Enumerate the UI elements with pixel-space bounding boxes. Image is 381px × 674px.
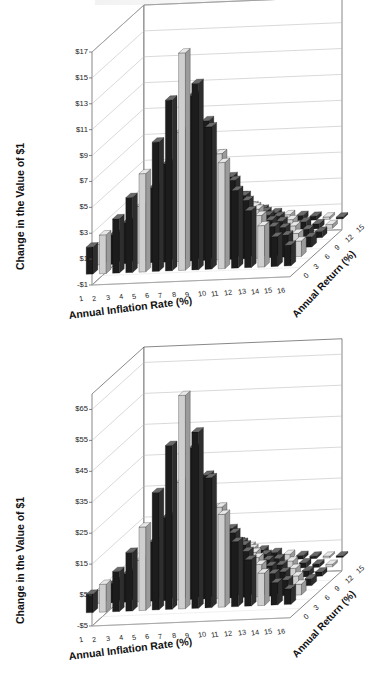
y-axis-tick: $55 (56, 435, 88, 444)
y-axis-tick: $1 (56, 254, 88, 263)
x-axis-tick: 14 (250, 286, 259, 296)
y-axis-tick: $7 (56, 176, 88, 185)
x-axis-tick: 11 (211, 629, 220, 639)
y-axis-tick: $5 (56, 590, 88, 599)
y-axis-tick: $35 (56, 497, 88, 506)
y-axis-tick: $45 (56, 466, 88, 475)
x-axis-tick: 15 (263, 627, 272, 637)
y-axis-tick: $11 (56, 125, 88, 134)
y-axis-tick: $17 (56, 47, 88, 56)
y-axis-tick: $15 (56, 559, 88, 568)
panel-20-years: (c) 20 Years Change in the Value of $1 -… (0, 0, 381, 334)
y-axis-tick: -$1 (56, 280, 88, 289)
figure-page: (c) 20 Years Change in the Value of $1 -… (0, 0, 381, 674)
x-axis-tick: 11 (211, 288, 220, 298)
y-axis-tick: $15 (56, 73, 88, 82)
y-axis-tick: $3 (56, 228, 88, 237)
y-axis-tick: $5 (56, 202, 88, 211)
x-axis-tick: 15 (263, 286, 272, 296)
x-axis-tick: 3 (105, 293, 110, 303)
y-axis-tick: $13 (56, 99, 88, 108)
panel-30-years: (d) 30 Years Change in the Value of $1 -… (0, 334, 381, 674)
x-axis-tick: 14 (250, 627, 259, 637)
panel-c-plot-area: -$1$1$3$5$7$9$11$13$15$17123456789101112… (0, 0, 381, 334)
x-axis-tick: 12 (224, 628, 233, 638)
x-axis-tick: 16 (277, 285, 286, 295)
y-axis-tick: $65 (56, 404, 88, 413)
y-axis-tick: $9 (56, 151, 88, 160)
x-axis-tick: 10 (197, 289, 206, 299)
x-axis-tick: 13 (237, 628, 246, 638)
x-axis-tick: 13 (237, 287, 246, 297)
x-axis-tick: 10 (197, 630, 206, 640)
x-axis-tick: 16 (277, 626, 286, 636)
x-axis-tick: 12 (224, 287, 233, 297)
y-axis-tick: $25 (56, 528, 88, 537)
x-axis-tick: 3 (105, 634, 110, 644)
panel-d-plot-area: -$5$5$15$25$35$45$55$6512345678910111213… (0, 334, 381, 674)
x-axis-tick: 4 (118, 633, 123, 643)
x-axis-tick: 4 (118, 292, 123, 302)
y-axis-tick: -$5 (56, 621, 88, 630)
